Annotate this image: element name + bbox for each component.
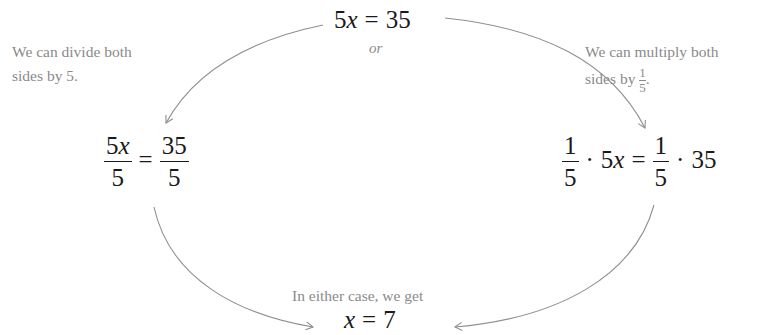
right-note-line1: We can multiply both (585, 40, 719, 64)
left-rhs-fraction: 35 5 (160, 133, 189, 192)
or-label: or (369, 40, 382, 57)
right-note: We can multiply both sides by 1 5 . (585, 40, 719, 96)
left-equals: = (132, 146, 160, 173)
left-equation: 5x 5 = 35 5 (104, 133, 189, 192)
left-note-line1: We can divide both (12, 40, 132, 64)
right-equals: = (624, 146, 652, 173)
arrow-left-to-result (154, 207, 313, 327)
top-coef: 5 (334, 6, 347, 33)
right-equation: 1 5 ·5x= 1 5 ·35 (562, 133, 716, 192)
right-note-line2: sides by 1 5 . (585, 66, 719, 96)
right-note-prefix: sides by (585, 70, 635, 87)
top-rhs: 35 (386, 6, 411, 33)
left-lhs-fraction: 5x 5 (104, 133, 132, 192)
top-var: x (347, 6, 358, 33)
result-note: In either case, we get (292, 284, 423, 308)
arrow-right-to-result (455, 205, 654, 327)
right-lhs-fraction: 1 5 (562, 133, 579, 192)
right-rhs-fraction: 1 5 (653, 133, 670, 192)
arrow-top-to-left (166, 25, 323, 123)
left-note-line2: sides by 5. (12, 64, 132, 88)
left-note: We can divide both sides by 5. (12, 40, 132, 88)
result-equation: x=7 (344, 306, 396, 334)
top-equals: = (358, 6, 386, 33)
top-equation: 5x=35 (334, 6, 411, 34)
